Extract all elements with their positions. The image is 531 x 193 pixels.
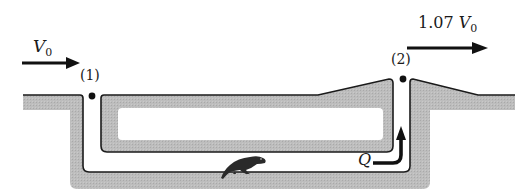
velocity-coefficient: 1.07 <box>418 13 454 32</box>
inner-void <box>118 108 383 140</box>
wind-arrow-outlet <box>407 42 488 54</box>
velocity-subscript: 0 <box>45 46 52 59</box>
flow-rate-label: Q <box>358 150 371 169</box>
point-2-label: (2) <box>391 51 411 67</box>
point-1-marker <box>89 93 96 100</box>
inlet-velocity-label: V0 <box>33 36 52 56</box>
outlet-velocity-label: 1.07 V0 <box>418 13 477 32</box>
velocity-symbol: V <box>459 13 471 32</box>
velocity-symbol: V <box>33 36 45 56</box>
point-2-marker <box>400 76 407 83</box>
point-1-label: (1) <box>80 67 100 83</box>
velocity-subscript: 0 <box>470 22 477 35</box>
